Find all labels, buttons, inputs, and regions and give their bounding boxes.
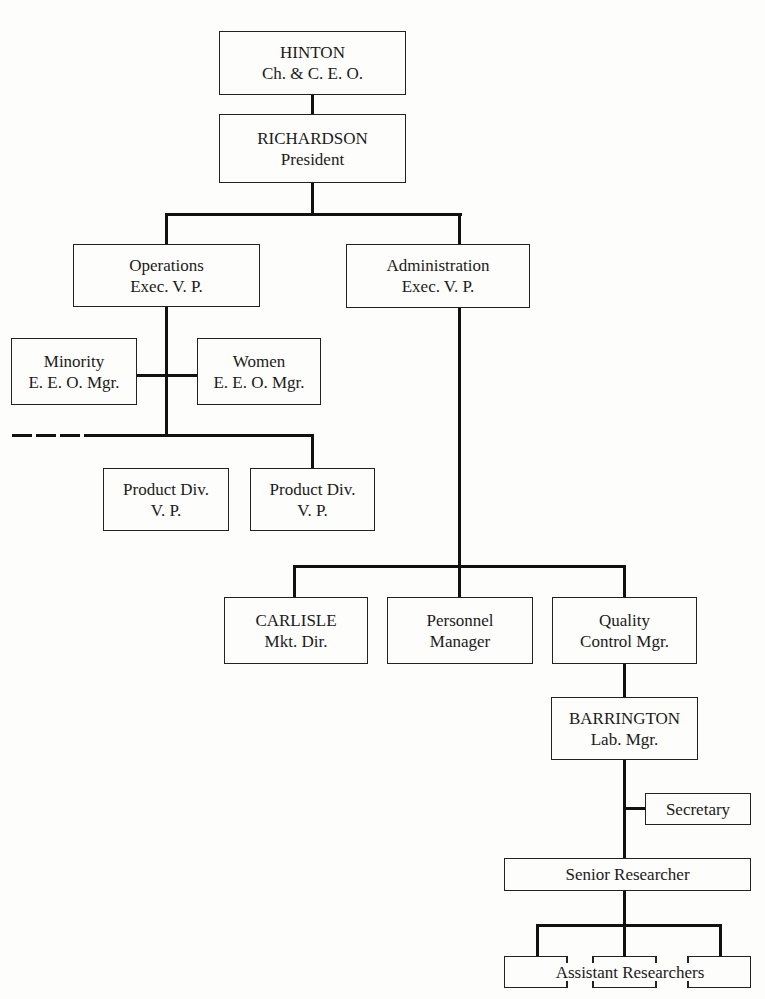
connector-to-assistant-2 <box>623 924 626 957</box>
connector-secretary <box>623 807 645 810</box>
node-administration-evp: Administration Exec. V. P. <box>346 244 530 308</box>
connector-to-product-div-2 <box>311 434 314 468</box>
connector-to-quality <box>623 565 626 597</box>
node-president-richardson: RICHARDSON President <box>219 114 406 183</box>
dashed-connector-segment <box>60 434 80 437</box>
node-name: Minority <box>44 351 104 372</box>
node-carlisle-mkt-dir: CARLISLE Mkt. Dir. <box>224 597 368 664</box>
node-name: Women <box>233 351 285 372</box>
node-name: Product Div. <box>123 479 209 500</box>
node-name: Operations <box>129 255 204 276</box>
node-title: Exec. V. P. <box>402 276 475 297</box>
node-name: Product Div. <box>270 479 356 500</box>
node-name: Senior Researcher <box>565 864 689 885</box>
node-name: HINTON <box>280 42 345 63</box>
connector-assistant-branch <box>536 924 722 927</box>
node-title: E. E. O. Mgr. <box>28 372 119 393</box>
node-name: Personnel <box>426 610 493 631</box>
connector-eeo-branch <box>136 374 197 377</box>
node-ceo-hinton: HINTON Ch. & C. E. O. <box>219 31 406 95</box>
connector-to-carlisle <box>293 565 296 597</box>
node-title: V. P. <box>151 500 181 521</box>
node-title: Manager <box>430 631 490 652</box>
node-product-div-vp-2: Product Div. V. P. <box>250 468 375 531</box>
connector-ceo-president <box>311 94 314 114</box>
connector-quality-barrington <box>623 663 626 697</box>
node-title: Control Mgr. <box>580 631 669 652</box>
node-title: Lab. Mgr. <box>591 729 659 750</box>
node-quality-control-mgr: Quality Control Mgr. <box>552 597 697 664</box>
connector-to-administration <box>458 213 461 244</box>
connector-to-personnel <box>458 565 461 597</box>
node-title: Ch. & C. E. O. <box>262 63 363 84</box>
connector-exec-branch <box>165 213 462 216</box>
node-title: Mkt. Dir. <box>265 631 328 652</box>
node-title: President <box>281 149 344 170</box>
connector-operations-trunk <box>165 306 168 437</box>
node-women-eeo-mgr: Women E. E. O. Mgr. <box>197 338 321 405</box>
node-barrington-lab-mgr: BARRINGTON Lab. Mgr. <box>551 697 698 760</box>
node-minority-eeo-mgr: Minority E. E. O. Mgr. <box>11 338 137 405</box>
connector-product-div-branch <box>84 434 314 437</box>
connector-administration-trunk <box>458 308 461 567</box>
node-name: Secretary <box>666 799 730 820</box>
connector-to-operations <box>165 213 168 244</box>
connector-to-assistant-1 <box>536 924 539 957</box>
node-title: Exec. V. P. <box>130 276 203 297</box>
connector-to-assistant-3 <box>719 924 722 957</box>
node-name: CARLISLE <box>255 610 336 631</box>
connector-president-down <box>311 183 314 216</box>
dashed-connector-segment <box>36 434 56 437</box>
node-name: RICHARDSON <box>257 128 368 149</box>
node-personnel-manager: Personnel Manager <box>387 597 533 664</box>
dashed-connector-segment <box>12 434 32 437</box>
node-title: E. E. O. Mgr. <box>213 372 304 393</box>
node-operations-evp: Operations Exec. V. P. <box>73 244 260 307</box>
node-senior-researcher: Senior Researcher <box>504 858 751 891</box>
node-product-div-vp-1: Product Div. V. P. <box>103 468 229 531</box>
node-name: Quality <box>599 610 650 631</box>
node-secretary: Secretary <box>645 793 751 825</box>
node-name: Administration <box>387 255 490 276</box>
node-title: V. P. <box>297 500 327 521</box>
node-name: BARRINGTON <box>569 708 680 729</box>
assistant-researchers-label: Assistant Researchers <box>536 962 724 983</box>
